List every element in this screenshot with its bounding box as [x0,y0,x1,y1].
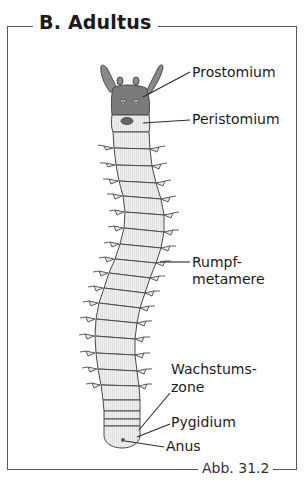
anus-dot [121,438,125,442]
prostomium-head [111,85,149,115]
label-rumpfmetamere-line1: Rumpf- [192,254,242,271]
label-peristomium: Peristomium [192,111,280,128]
label-pygidium: Pygidium [171,414,236,431]
label-wachstumszone-line2: zone [171,379,204,396]
pygidium [104,426,140,448]
label-prostomium: Prostomium [192,64,276,81]
label-anus: Anus [166,438,201,455]
mouth [121,118,133,125]
label-rumpfmetamere-line2: metamere [192,271,265,288]
label-wachstumszone-line1: Wachstums- [171,361,257,378]
